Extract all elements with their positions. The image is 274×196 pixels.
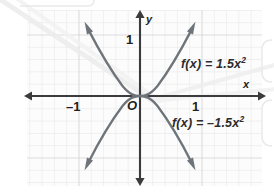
graph-canvas: [0, 0, 274, 196]
y-axis-label: y: [146, 14, 152, 25]
equation-label-lower-exponent: 2: [239, 114, 244, 124]
x-tick-label-negative-1: –1: [66, 100, 80, 113]
origin-label: O: [127, 99, 137, 112]
figure-container: y x 1 –1 1 O f(x) = 1.5x2 f(x) = –1.5x2: [0, 0, 274, 196]
equation-label-upper-text: f(x) = 1.5x: [181, 57, 241, 71]
equation-label-lower-text: f(x) = –1.5x: [172, 116, 239, 130]
equation-label-lower: f(x) = –1.5x2: [172, 117, 244, 130]
equation-label-upper-exponent: 2: [241, 55, 246, 65]
equation-label-upper: f(x) = 1.5x2: [181, 58, 246, 71]
x-axis-label: x: [243, 79, 249, 90]
x-tick-label-1: 1: [192, 100, 199, 113]
y-tick-label-1: 1: [126, 33, 133, 46]
